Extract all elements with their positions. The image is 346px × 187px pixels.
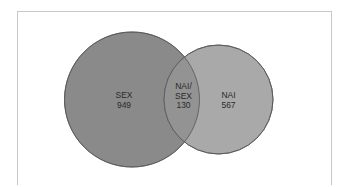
set-value-sex: 949 (117, 100, 131, 110)
set-label-nai: NAI (221, 90, 235, 100)
set-label-sex: SEX (115, 90, 132, 100)
intersection-label-line1: NAI/ (175, 81, 192, 91)
intersection-value: 130 (176, 100, 190, 110)
venn-diagram: SEX 949 NAI/ SEX 130 NAI 567 (0, 0, 346, 187)
intersection-label-line2: SEX (175, 91, 192, 101)
set-value-nai: 567 (221, 100, 235, 110)
